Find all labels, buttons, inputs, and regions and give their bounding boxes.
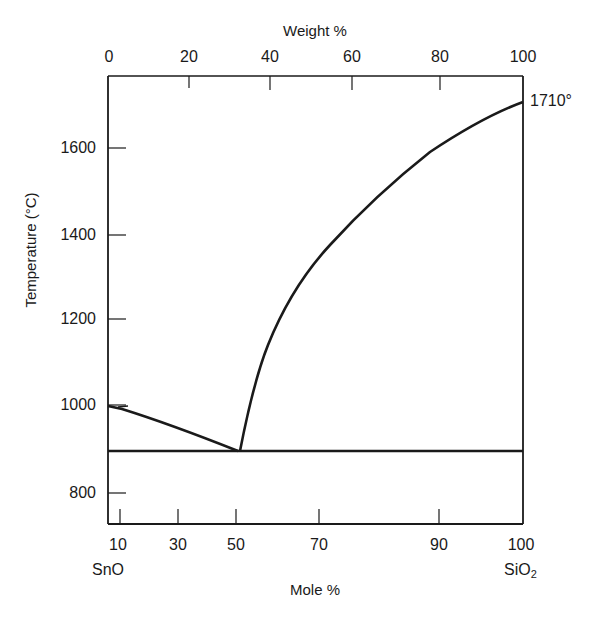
top-tick-label: 20 (180, 49, 198, 65)
top-tick-label: 60 (343, 49, 361, 65)
right-component-subscript: 2 (531, 568, 537, 580)
top-tick-label: 80 (431, 49, 449, 65)
plot-frame (108, 76, 523, 524)
melting-point-annotation: 1710° (530, 93, 572, 109)
liquidus-sno-tick (118, 406, 128, 407)
bottom-tick-label: 70 (310, 537, 328, 553)
liquidus-sno-side (108, 406, 238, 451)
bottom-tick-label: 10 (109, 537, 127, 553)
left-component-label: SnO (92, 562, 124, 578)
bottom-axis-ticks (120, 509, 439, 524)
left-axis-title: Temperature (°C) (23, 192, 38, 307)
left-tick-label: 1000 (36, 397, 96, 413)
left-tick-label: 1200 (36, 311, 96, 327)
top-axis-title: Weight % (283, 23, 347, 38)
bottom-tick-label: 50 (227, 537, 245, 553)
left-tick-label: 800 (36, 485, 96, 501)
bottom-tick-label: 30 (169, 537, 187, 553)
right-component-label: SiO2 (504, 562, 537, 580)
left-tick-label: 1400 (36, 227, 96, 243)
bottom-axis-title: Mole % (290, 582, 340, 597)
liquidus-sio2-side (240, 102, 523, 451)
left-axis-ticks (108, 148, 126, 493)
top-tick-label: 0 (105, 49, 114, 65)
left-tick-label: 1600 (36, 140, 96, 156)
bottom-tick-label: 90 (430, 537, 448, 553)
bottom-tick-label: 100 (508, 537, 535, 553)
right-component-base: SiO (504, 561, 531, 578)
top-tick-label: 40 (261, 49, 279, 65)
top-axis-ticks (189, 76, 440, 90)
top-tick-label: 100 (510, 49, 537, 65)
